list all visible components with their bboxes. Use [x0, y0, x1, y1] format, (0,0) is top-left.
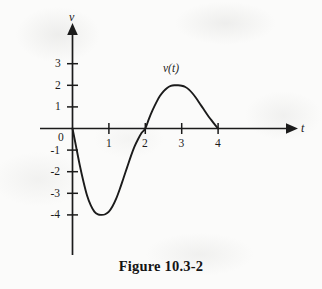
x-tick-label-2: 2 — [142, 138, 148, 150]
y-axis-label: v — [69, 11, 74, 23]
figure-container: 3 2 1 0 -1 -2 -3 -4 1 2 3 4 v t v(t) Fig… — [0, 0, 322, 289]
y-axis-arrow-icon — [67, 23, 78, 35]
curve-label: v(t) — [163, 63, 179, 75]
y-tick-label-neg1: -1 — [51, 145, 61, 157]
x-axis-label: t — [301, 122, 304, 134]
x-axis-arrow-icon — [286, 123, 298, 134]
y-tick-label-1: 1 — [55, 101, 61, 113]
x-tick-label-4: 4 — [215, 138, 221, 150]
y-tick-label-3: 3 — [55, 58, 61, 70]
x-tick-label-3: 3 — [179, 138, 185, 150]
y-tick-label-neg2: -2 — [51, 166, 61, 178]
figure-caption: Figure 10.3-2 — [0, 258, 322, 275]
velocity-curve — [73, 85, 219, 215]
y-tick-label-neg4: -4 — [51, 209, 61, 221]
y-tick-label-0: 0 — [58, 132, 64, 144]
y-tick-label-neg3: -3 — [51, 188, 61, 200]
plot-area — [0, 0, 322, 289]
x-tick-label-1: 1 — [106, 138, 112, 150]
y-tick-label-2: 2 — [55, 80, 61, 92]
